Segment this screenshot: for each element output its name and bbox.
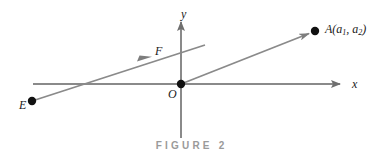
point-label-a-prefix: A(a xyxy=(325,22,342,36)
point-label-a-sub2: 2 xyxy=(358,28,362,37)
point-label-a-mid: , a xyxy=(346,22,358,36)
point-e-dot xyxy=(28,97,36,105)
origin-label: O xyxy=(168,88,177,100)
vector-oa-line xyxy=(181,34,309,85)
vector-ef-line xyxy=(32,45,205,101)
x-axis-label: x xyxy=(352,78,357,90)
figure-caption: FIGURE 2 xyxy=(0,140,380,151)
point-label-e: E xyxy=(19,99,26,111)
point-a-dot xyxy=(311,27,319,35)
point-label-a: A(a1, a2) xyxy=(325,23,366,35)
point-label-a-sub1: 1 xyxy=(342,28,346,37)
vector-label-f: F xyxy=(155,45,162,57)
vector-ef-arrowhead xyxy=(137,56,152,62)
point-origin-dot xyxy=(177,80,185,88)
y-axis-label: y xyxy=(181,8,186,20)
figure-container: y x O E F A(a1, a2) FIGURE 2 xyxy=(0,0,380,164)
point-label-a-suffix: ) xyxy=(362,22,366,36)
